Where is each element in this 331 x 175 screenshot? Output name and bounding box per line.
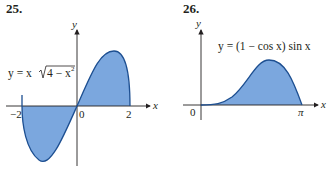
figures-canvas: y x −2 0 2 y = x 4 − x 2 y x 0 π y = (1 … xyxy=(0,0,331,175)
figure-25-equation-lhs: y = x xyxy=(8,67,32,80)
figure-26-x-label: x xyxy=(320,98,326,110)
figure-25: y x −2 0 2 y = x 4 − x 2 xyxy=(6,18,158,166)
figure-26-tick-pi: π xyxy=(298,106,304,118)
figure-25-tick-0: 0 xyxy=(79,108,85,120)
figure-26: y x 0 π y = (1 − cos x) sin x xyxy=(183,17,326,120)
figure-25-tick-neg2: −2 xyxy=(10,108,22,120)
figure-26-tick-0: 0 xyxy=(190,106,196,118)
figure-26-y-label: y xyxy=(195,17,201,29)
figure-26-equation: y = (1 − cos x) sin x xyxy=(218,40,311,53)
figure-25-equation: y = x 4 − x 2 xyxy=(8,65,75,80)
figure-25-x-label: x xyxy=(152,99,158,111)
figure-25-tick-2: 2 xyxy=(126,108,132,120)
figure-25-equation-radicand: 4 − x xyxy=(47,67,71,79)
figure-25-y-label: y xyxy=(71,18,77,30)
figure-26-shaded-area xyxy=(201,60,302,105)
figure-25-equation-exponent: 2 xyxy=(71,65,75,73)
